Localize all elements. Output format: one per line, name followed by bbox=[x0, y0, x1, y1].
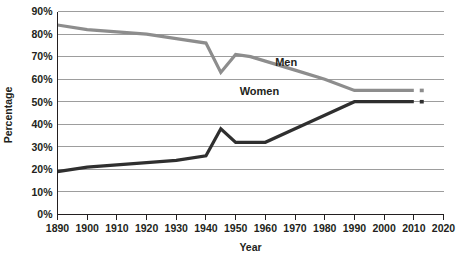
series-label-women: Women bbox=[240, 85, 280, 97]
y-axis-tick-label: 10% bbox=[31, 186, 53, 198]
x-axis-tick-label: 1920 bbox=[135, 222, 159, 234]
x-axis-tick-label: 2020 bbox=[432, 222, 456, 234]
line-chart: 0%10%20%30%40%50%60%70%80%90% 1890190019… bbox=[0, 0, 468, 262]
series-line-men bbox=[58, 25, 414, 90]
data-series bbox=[58, 25, 429, 172]
x-axis-tick-label: 2010 bbox=[402, 222, 426, 234]
x-axis-title: Year bbox=[239, 241, 261, 253]
x-axis-tick-label: 1900 bbox=[76, 222, 100, 234]
y-axis-tick-label: 20% bbox=[31, 163, 53, 175]
y-axis-tick-label: 60% bbox=[31, 73, 53, 85]
chart-container: 0%10%20%30%40%50%60%70%80%90% 1890190019… bbox=[0, 0, 468, 262]
x-axis-tick-label: 1980 bbox=[313, 222, 337, 234]
y-axis-tick-labels: 0%10%20%30%40%50%60%70%80%90% bbox=[31, 5, 53, 220]
series-label-men: Men bbox=[275, 56, 297, 68]
x-axis-tick-label: 1930 bbox=[165, 222, 189, 234]
y-axis-tick-label: 90% bbox=[31, 5, 53, 17]
x-axis-tick-marks bbox=[58, 215, 444, 220]
x-axis-tick-label: 1990 bbox=[343, 222, 367, 234]
series-line-women bbox=[58, 102, 414, 172]
x-axis-tick-label: 1910 bbox=[105, 222, 129, 234]
y-axis-tick-label: 80% bbox=[31, 28, 53, 40]
x-axis-tick-label: 1960 bbox=[254, 222, 278, 234]
y-axis-title: Percentage bbox=[2, 87, 14, 144]
x-axis-tick-label: 1940 bbox=[194, 222, 218, 234]
y-axis-tick-label: 50% bbox=[31, 96, 53, 108]
y-axis-tick-label: 0% bbox=[37, 208, 53, 220]
y-axis-tick-label: 30% bbox=[31, 141, 53, 153]
x-axis-tick-label: 1950 bbox=[224, 222, 248, 234]
y-axis-tick-label: 40% bbox=[31, 118, 53, 130]
y-axis-tick-label: 70% bbox=[31, 50, 53, 62]
x-axis-tick-label: 1970 bbox=[283, 222, 307, 234]
x-axis-tick-labels: 1890190019101920193019401950196019701980… bbox=[46, 222, 456, 234]
x-axis-tick-label: 2000 bbox=[372, 222, 396, 234]
x-axis-tick-label: 1890 bbox=[46, 222, 70, 234]
